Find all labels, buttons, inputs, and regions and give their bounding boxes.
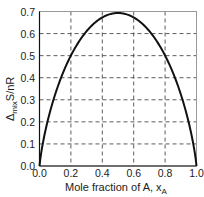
x-tick-label: 0.0 — [32, 167, 47, 179]
y-tick-labels: 0.00.10.20.30.40.50.60.7 — [20, 6, 35, 173]
plot-frame — [40, 12, 197, 167]
x-axis-label-main: Mole fraction of A, x — [65, 181, 162, 193]
x-axis-label-sub: A — [162, 187, 168, 196]
y-axis-label-sub: mix — [10, 101, 19, 113]
x-tick-label: 0.8 — [158, 167, 173, 179]
x-tick-label: 0.6 — [126, 167, 141, 179]
y-tick-label: 0.2 — [20, 116, 35, 128]
x-axis-label: Mole fraction of A, xA — [65, 181, 168, 196]
mixing-entropy-curve — [40, 13, 197, 166]
grid-lines — [40, 12, 197, 167]
y-tick-label: 0.7 — [20, 6, 35, 18]
entropy-of-mixing-chart: 0.00.10.20.30.40.50.60.7 0.00.20.40.60.8… — [0, 0, 204, 197]
y-tick-label: 0.3 — [20, 94, 35, 106]
y-tick-label: 0.1 — [20, 138, 35, 150]
y-axis-label-suffix: S/nR — [4, 77, 16, 102]
y-tick-label: 0.4 — [20, 72, 35, 84]
y-tick-label: 0.5 — [20, 50, 35, 62]
x-tick-labels: 0.00.20.40.60.81.0 — [32, 167, 204, 179]
y-tick-label: 0.6 — [20, 28, 35, 40]
y-axis-label: ΔmixS/nR — [4, 77, 19, 121]
x-tick-label: 1.0 — [189, 167, 204, 179]
x-tick-label: 0.2 — [64, 167, 79, 179]
x-tick-label: 0.4 — [95, 167, 110, 179]
